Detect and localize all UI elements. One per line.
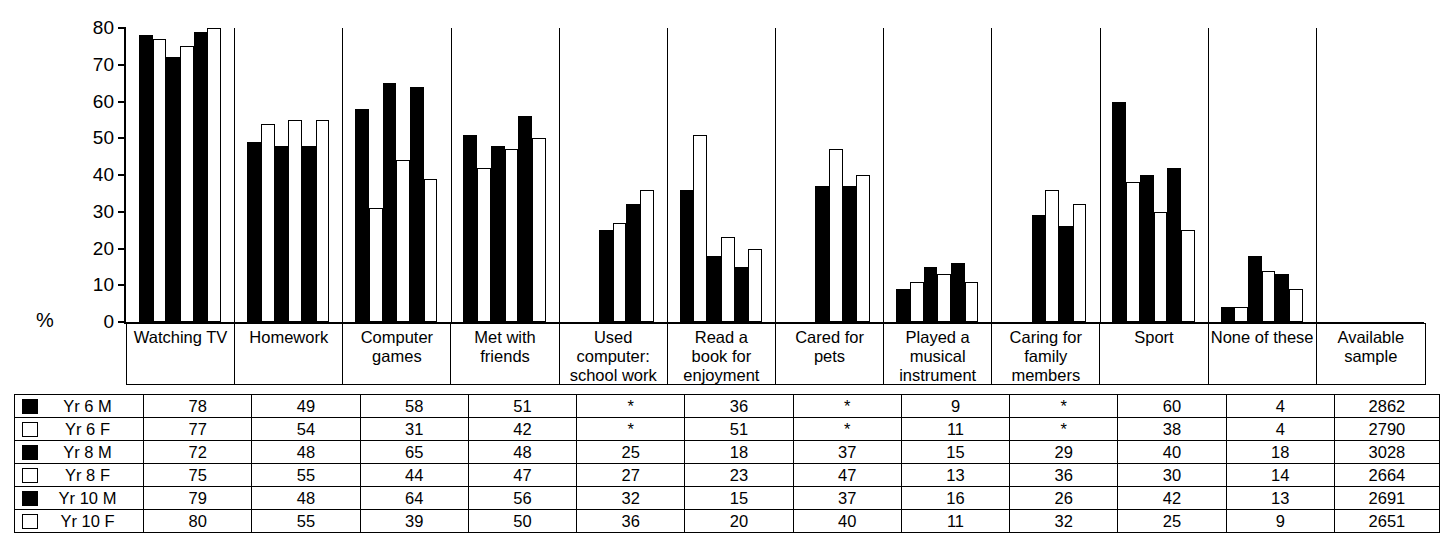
bar [275,146,289,322]
table-row-legend-cell: Yr 8 M [15,441,144,464]
bar [207,28,221,322]
category-header-cell: Homework [235,324,343,384]
table-row-legend-cell: Yr 10 F [15,510,144,533]
table-cell: 48 [252,441,360,464]
group-separator [1208,28,1209,322]
table-cell: 49 [252,395,360,418]
bar [532,138,546,322]
table-cell: 16 [901,487,1009,510]
table-cell: 20 [685,510,793,533]
bar [626,204,640,322]
bar-group [559,28,667,322]
table-cell: 31 [360,418,468,441]
category-header-text: Sport [1134,328,1173,347]
bar-group-bars [559,28,667,322]
bar-group [1100,28,1208,322]
table-cell: * [1010,418,1118,441]
table-cell: 50 [468,510,576,533]
category-header-text: Caring forfamilymembers [1010,328,1082,385]
bar [491,146,505,322]
bar [410,87,424,322]
bar [288,120,302,322]
table-cell: 4 [1226,395,1334,418]
table-cell: * [793,395,901,418]
category-header-strip: Watching TVHomeworkComputergamesMet with… [126,323,1426,385]
table-cell: 3028 [1334,441,1439,464]
table-cell: * [1010,395,1118,418]
table-cell: 29 [1010,441,1118,464]
bar [1248,256,1262,322]
bar-group-bars [991,28,1099,322]
bar [1275,274,1289,322]
bar [599,230,613,322]
legend-swatch-female-icon [22,422,38,437]
legend-row-label: Yr 6 F [38,420,143,439]
category-header-cell: Computergames [343,324,451,384]
category-header-text: Read abook forenjoyment [683,328,759,385]
group-separator [991,28,992,322]
bar [937,274,951,322]
bar [815,186,829,322]
bar [1032,215,1046,322]
group-separator [667,28,668,322]
bar [1181,230,1195,322]
bar [1262,271,1276,322]
bar-group [883,28,991,322]
category-header-text: None of these [1211,328,1314,347]
table-cell: 75 [144,464,252,487]
bar [396,160,410,322]
bar-group-bars [234,28,342,322]
legend-row-label: Yr 8 M [38,443,143,462]
category-header-cell: Availablesample [1317,324,1425,384]
bar [1073,204,1087,322]
table-cell: 9 [901,395,1009,418]
bar [1112,102,1126,323]
table-cell: 65 [360,441,468,464]
table-row: Yr 6 M78495851*36*9*6042862 [15,395,1440,418]
group-separator [342,28,343,322]
bar [166,57,180,322]
y-tick-label: 60 [66,92,114,111]
y-tick-label: 10 [66,275,114,294]
bar [707,256,721,322]
bar-group-bars [1208,28,1316,322]
table-cell: 48 [252,487,360,510]
table-cell: 11 [901,418,1009,441]
group-separator [883,28,884,322]
bar [680,190,694,322]
y-tick-label: 30 [66,202,114,221]
table-cell: 47 [468,464,576,487]
table-cell: 11 [901,510,1009,533]
table-cell: 40 [1118,441,1226,464]
y-tick-label: 0 [66,312,114,331]
bar [355,109,369,322]
legend-row-label: Yr 8 F [38,466,143,485]
category-header-text: Watching TV [134,328,228,347]
legend-row-label: Yr 10 M [38,489,143,508]
group-separator [559,28,560,322]
table-cell: * [577,418,685,441]
table-cell: 36 [577,510,685,533]
bar [153,39,167,322]
category-header-cell: Sport [1100,324,1208,384]
bar [693,135,707,322]
bar-group-bars [342,28,450,322]
table-cell: 18 [1226,441,1334,464]
bar [139,35,153,322]
bar-group [342,28,450,322]
bar-group [451,28,559,322]
category-header-cell: Watching TV [127,324,235,384]
table-cell: 37 [793,441,901,464]
bar [829,149,843,322]
table-cell: 36 [1010,464,1118,487]
bar [180,46,194,322]
data-table-container: Yr 6 M78495851*36*9*6042862Yr 6 F7754314… [14,394,1426,533]
bar-group-bars [126,28,234,322]
table-cell: 47 [793,464,901,487]
group-separator [234,28,235,322]
bar [896,289,910,322]
table-cell: 2664 [1334,464,1439,487]
table-cell: 2862 [1334,395,1439,418]
table-cell: 30 [1118,464,1226,487]
table-cell: 13 [1226,487,1334,510]
